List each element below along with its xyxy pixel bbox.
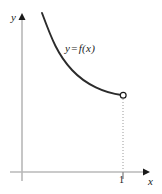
graph-canvas [0, 0, 162, 194]
open-endpoint-circle [120, 92, 126, 98]
curve-equation-label: y=f(x) [65, 42, 95, 54]
y-axis-label: y [11, 12, 16, 23]
function-graph-figure: y x 1 y=f(x) [0, 0, 162, 194]
x-tick-label-1: 1 [119, 175, 124, 185]
x-axis-label: x [148, 176, 153, 187]
y-axis-arrow-icon [19, 13, 26, 20]
function-curve [42, 13, 122, 95]
curve-label-equals: = [70, 42, 79, 54]
curve-label-argument: (x) [82, 42, 95, 54]
